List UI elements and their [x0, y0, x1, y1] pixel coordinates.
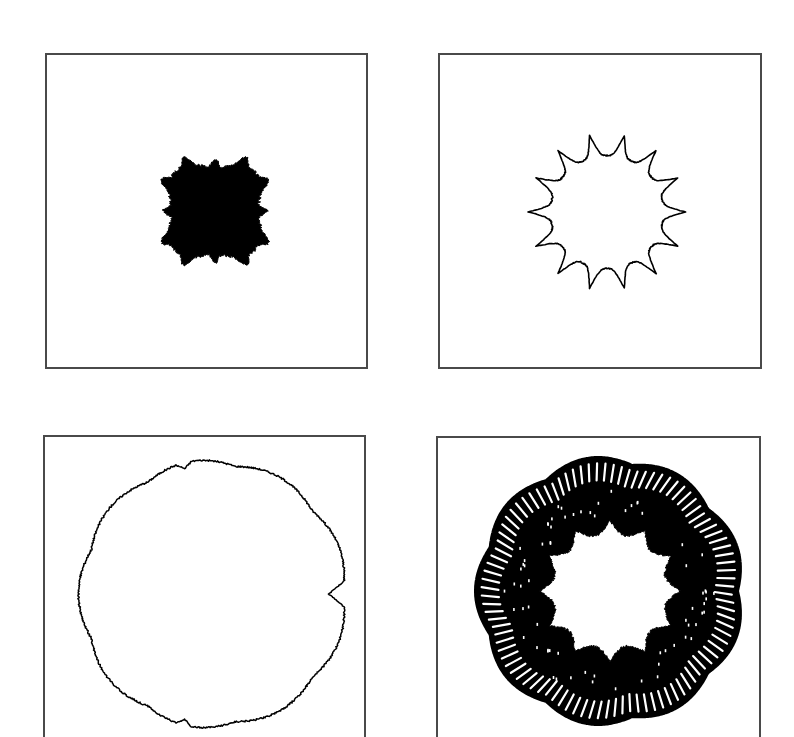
star-outline-plot: [440, 55, 764, 371]
ring-plot: [438, 438, 763, 737]
panel-top-right-star-outline: [438, 53, 762, 369]
panel-bottom-right-ring: [436, 436, 761, 737]
panel-bottom-left-wavy-circle: [43, 435, 366, 737]
panel-top-left-filled-blob: [45, 53, 368, 369]
wavy-circle-plot: [45, 437, 368, 737]
filled-blob-plot: [47, 55, 370, 371]
